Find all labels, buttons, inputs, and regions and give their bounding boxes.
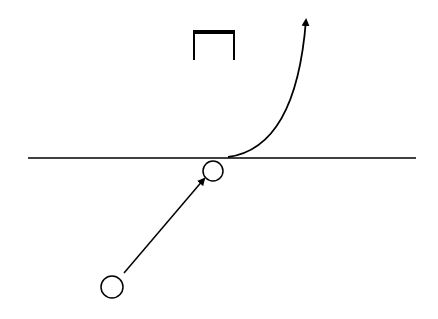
curved-arrow bbox=[228, 20, 306, 157]
upper-circle-node bbox=[203, 161, 223, 181]
diagram-canvas bbox=[0, 0, 438, 319]
diagonal-arrow bbox=[124, 179, 204, 273]
lower-circle-node bbox=[101, 276, 123, 298]
bracket-shape bbox=[193, 32, 235, 60]
